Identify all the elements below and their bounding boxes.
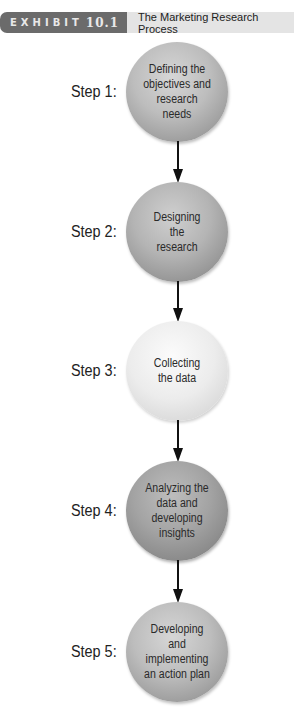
step-circle: Collecting the data <box>126 321 228 421</box>
step-1: Step 1: Defining the objectives and rese… <box>0 42 307 142</box>
step-5: Step 5: Developing and implementing an a… <box>0 602 307 702</box>
exhibit-header: EXHIBIT 10.1 The Marketing Research Proc… <box>0 12 294 33</box>
arrow-down-icon <box>173 281 183 322</box>
step-circle: Designing the research <box>126 182 228 282</box>
step-label: Step 5: <box>71 602 117 702</box>
exhibit-tag: EXHIBIT 10.1 <box>0 12 127 33</box>
step-4: Step 4: Analyzing the data and developin… <box>0 461 307 561</box>
step-circle: Analyzing the data and developing insigh… <box>126 461 228 561</box>
arrow-down-icon <box>173 420 183 462</box>
step-circle: Defining the objectives and research nee… <box>126 42 228 142</box>
step-text: Designing the research <box>151 210 204 255</box>
step-circle: Developing and implementing an action pl… <box>126 602 228 702</box>
step-label: Step 3: <box>71 321 117 421</box>
step-2: Step 2: Designing the research <box>0 182 307 282</box>
step-3: Step 3: Collecting the data <box>0 321 307 421</box>
arrow-down-icon <box>173 141 183 183</box>
exhibit-title: The Marketing Research Process <box>127 12 294 33</box>
step-label: Step 2: <box>71 182 117 282</box>
exhibit-number: 10.1 <box>86 16 119 30</box>
step-label: Step 1: <box>71 42 117 142</box>
step-text: Analyzing the data and developing insigh… <box>142 481 212 541</box>
step-label: Step 4: <box>71 461 117 561</box>
step-text: Developing and implementing an action pl… <box>141 622 213 682</box>
exhibit-label: EXHIBIT <box>10 17 83 28</box>
arrow-down-icon <box>173 560 183 603</box>
step-text: Defining the objectives and research nee… <box>141 62 213 122</box>
step-text: Collecting the data <box>151 356 204 386</box>
